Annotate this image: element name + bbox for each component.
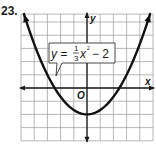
parabola-graph: 23. x y O y = 1 3 x 2 − 2	[0, 0, 156, 154]
origin-label: O	[77, 90, 85, 101]
curve-right-arrow	[145, 14, 151, 23]
axes	[19, 12, 155, 143]
x-axis-label: x	[144, 76, 151, 87]
equation-fraction-denominator: 3	[74, 54, 79, 63]
equation-callout: y = 1 3 x 2 − 2	[49, 43, 115, 76]
equation-fraction-numerator: 1	[74, 44, 79, 53]
y-axis-up-arrow	[85, 12, 90, 18]
curve-left-arrow	[23, 14, 29, 23]
equation-exponent: 2	[87, 45, 90, 51]
x-axis-left-arrow	[19, 86, 25, 91]
equation-constant: − 2	[92, 47, 109, 61]
equation-variable: x	[79, 47, 87, 61]
problem-number: 23.	[1, 4, 18, 18]
y-axis-label: y	[89, 13, 96, 24]
y-axis-down-arrow	[85, 137, 90, 143]
equation-lhs: y =	[50, 47, 67, 61]
